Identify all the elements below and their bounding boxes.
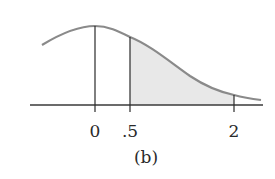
figure-caption: (b) (134, 147, 158, 167)
tick-label-half: .5 (122, 121, 138, 141)
tick-label-two: 2 (229, 121, 240, 141)
tick-label-zero: 0 (90, 121, 101, 141)
normal-curve-diagram: 0 .5 2 (b) (0, 0, 275, 179)
